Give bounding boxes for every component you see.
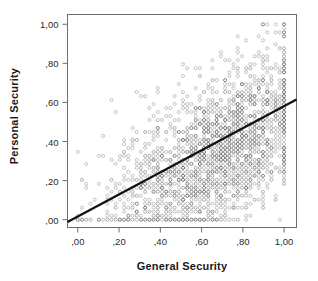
x-tick-label: ,20 (112, 236, 125, 247)
y-tick-label: 1,00 (40, 19, 59, 30)
x-tick-label: ,40 (154, 236, 167, 247)
scatter-plot-figure: Personal Security General Security ,00,2… (0, 0, 318, 281)
x-axis-title-wrap: General Security (67, 256, 297, 274)
y-axis-title-wrap: Personal Security (4, 0, 24, 232)
x-tick-label: ,00 (71, 236, 84, 247)
x-tick-label: 1,00 (275, 236, 294, 247)
x-tick-label: ,80 (236, 236, 249, 247)
x-tick-label: ,60 (195, 236, 208, 247)
y-tick-label: ,40 (45, 136, 58, 147)
y-tick-label: ,00 (45, 214, 58, 225)
y-axis-title: Personal Security (8, 68, 20, 164)
y-tick-label: ,20 (45, 175, 58, 186)
y-tick-label: ,60 (45, 97, 58, 108)
y-tick-label: ,80 (45, 58, 58, 69)
x-axis-title: General Security (137, 260, 228, 272)
